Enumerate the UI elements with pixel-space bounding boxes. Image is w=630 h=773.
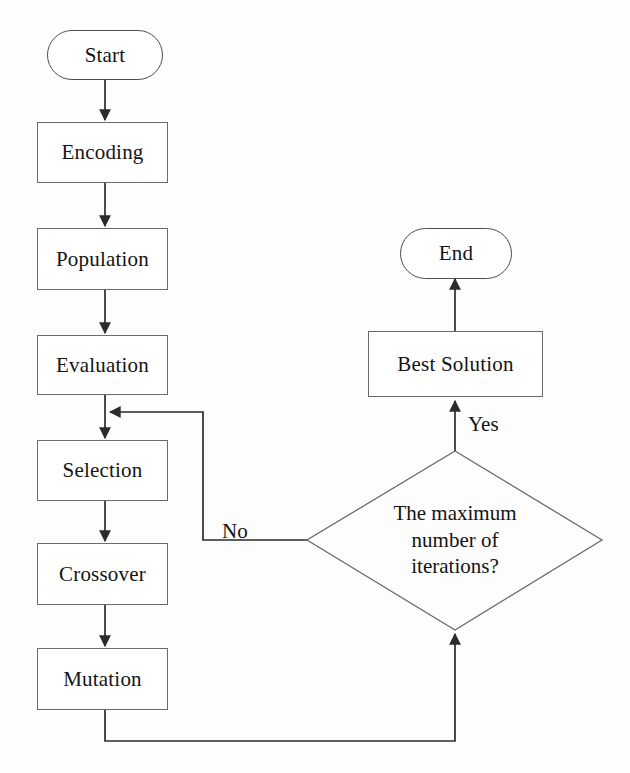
- node-start-label: Start: [85, 43, 126, 68]
- node-evaluation-label: Evaluation: [56, 353, 149, 378]
- node-encoding[interactable]: Encoding: [37, 122, 168, 183]
- node-selection[interactable]: Selection: [37, 440, 168, 501]
- decision-diamond-shape: [307, 451, 602, 630]
- node-encoding-label: Encoding: [61, 140, 143, 165]
- edge-label-no: No: [222, 519, 248, 544]
- node-start[interactable]: Start: [47, 30, 163, 80]
- flowchart-canvas: Start Encoding Population Evaluation Sel…: [0, 0, 630, 773]
- node-end-label: End: [439, 241, 473, 266]
- node-best-solution[interactable]: Best Solution: [368, 331, 543, 397]
- node-mutation[interactable]: Mutation: [37, 648, 168, 710]
- edge-label-yes: Yes: [468, 412, 499, 437]
- node-crossover[interactable]: Crossover: [37, 543, 168, 605]
- node-best-solution-label: Best Solution: [397, 352, 513, 377]
- node-end[interactable]: End: [400, 228, 512, 279]
- node-population-label: Population: [56, 247, 149, 272]
- node-evaluation[interactable]: Evaluation: [37, 335, 168, 395]
- node-selection-label: Selection: [63, 458, 143, 483]
- node-population[interactable]: Population: [37, 228, 168, 290]
- node-mutation-label: Mutation: [63, 667, 142, 692]
- node-crossover-label: Crossover: [59, 562, 146, 587]
